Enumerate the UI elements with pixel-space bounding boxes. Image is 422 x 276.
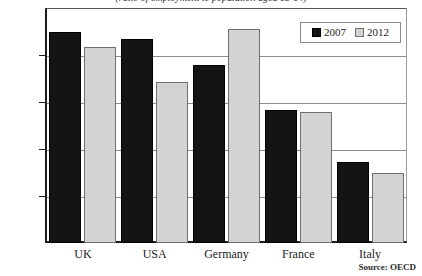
- legend-label: 2007: [324, 27, 346, 38]
- chart-subtitle: (ratio of employment to population aged …: [0, 0, 422, 3]
- bar-group: [262, 8, 334, 243]
- x-axis-tick-label: USA: [119, 248, 191, 261]
- bar-group: [119, 8, 191, 243]
- source-note: Source: OECD: [358, 262, 416, 272]
- legend-entry-2007: 2007: [312, 27, 346, 38]
- bar-group: [47, 8, 119, 243]
- bar-usa-2012: [156, 82, 188, 243]
- x-axis-tick-label: France: [262, 248, 334, 261]
- x-axis-tick-label: UK: [47, 248, 119, 261]
- bar-group: [191, 8, 263, 243]
- chart-legend: 20072012: [300, 22, 401, 43]
- bar-germany-2007: [193, 65, 225, 243]
- bar-group: [334, 8, 406, 243]
- legend-swatch-2007: [312, 28, 321, 37]
- chart-figure: (ratio of employment to population aged …: [0, 0, 422, 276]
- bar-italy-2007: [337, 162, 369, 243]
- bar-germany-2012: [228, 29, 260, 243]
- bar-usa-2007: [121, 39, 153, 243]
- bar-france-2007: [265, 110, 297, 243]
- x-axis-tick-label: Italy: [334, 248, 406, 261]
- legend-entry-2012: 2012: [355, 27, 389, 38]
- bar-uk-2007: [49, 32, 81, 243]
- x-axis-tick-label: Germany: [191, 248, 263, 261]
- bars-layer: [47, 8, 406, 243]
- legend-swatch-2012: [355, 28, 364, 37]
- bar-italy-2012: [372, 173, 404, 244]
- legend-label: 2012: [367, 27, 389, 38]
- bar-uk-2012: [84, 47, 116, 243]
- bar-france-2012: [300, 112, 332, 243]
